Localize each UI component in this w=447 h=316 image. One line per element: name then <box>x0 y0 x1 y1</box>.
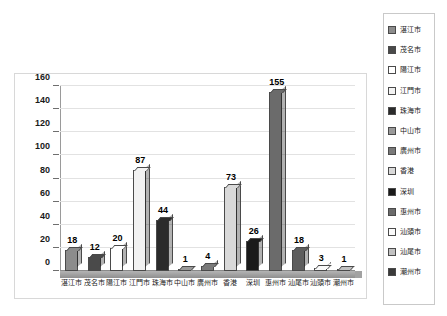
bar-value-label: 1 <box>183 255 188 264</box>
bar-slot[interactable]: 155 <box>264 86 287 271</box>
bar[interactable]: 20 <box>110 248 123 271</box>
bar-slot[interactable]: 1 <box>332 86 355 271</box>
bar-face[interactable] <box>178 269 191 271</box>
bar-series: 18122087441473261551831 <box>60 86 355 271</box>
bar-value-label: 20 <box>113 234 123 243</box>
legend-item-label: 潮州市 <box>400 268 421 276</box>
chart-page: 020406080100120140160 181220874414732615… <box>0 0 447 316</box>
legend-item-label: 茂名市 <box>400 46 421 54</box>
bar-face[interactable] <box>156 220 169 271</box>
legend-item-label: 陽江市 <box>400 66 421 74</box>
bar-face[interactable] <box>110 248 123 271</box>
x-axis-label: 潮州市 <box>332 279 355 287</box>
chart-floor <box>60 270 355 278</box>
bar-side-face <box>281 86 286 267</box>
bar-top-face <box>202 263 219 267</box>
bar-face[interactable] <box>337 269 350 271</box>
legend-swatch-icon <box>388 248 396 256</box>
bar-slot[interactable]: 18 <box>287 86 310 271</box>
plot-area: 020406080100120140160 181220874414732615… <box>60 86 355 271</box>
y-axis-tick-label: 40 <box>40 211 50 220</box>
legend-item[interactable]: 潮州市 <box>388 262 431 282</box>
bar[interactable]: 155 <box>269 92 282 271</box>
bar-top-face <box>225 184 242 188</box>
x-axis-label: 珠海市 <box>151 279 174 287</box>
bar-slot[interactable]: 4 <box>196 86 219 271</box>
x-axis-labels: 湛江市茂名市陽江市江門市珠海市中山市廣州市香港深圳惠州市汕尾市汕頭市潮州市 <box>60 279 355 287</box>
legend-item[interactable]: 珠海市 <box>388 101 431 121</box>
legend-swatch-icon <box>388 26 396 34</box>
y-axis-tick-label: 60 <box>40 188 50 197</box>
bar-face[interactable] <box>224 187 237 271</box>
bar-face[interactable] <box>65 250 78 271</box>
legend-item[interactable]: 陽江市 <box>388 60 431 80</box>
bar[interactable]: 18 <box>292 250 305 271</box>
bar[interactable]: 44 <box>156 220 169 271</box>
bar[interactable]: 18 <box>65 250 78 271</box>
x-axis-label: 茂名市 <box>83 279 106 287</box>
bar[interactable]: 4 <box>201 266 214 271</box>
legend-swatch-icon <box>388 188 396 196</box>
bar-face[interactable] <box>133 170 146 271</box>
bar-slot[interactable]: 1 <box>173 86 196 271</box>
bar-face[interactable] <box>201 266 214 271</box>
legend-item[interactable]: 中山市 <box>388 121 431 141</box>
x-axis-label: 中山市 <box>173 279 196 287</box>
bar-face[interactable] <box>88 257 101 271</box>
chart-legend: 湛江市茂名市陽江市江門市珠海市中山市廣州市香港深圳惠州市汕頭市汕尾市潮州市 <box>383 13 435 305</box>
x-axis-label: 深圳 <box>242 279 265 287</box>
bar-slot[interactable]: 26 <box>242 86 265 271</box>
bar[interactable]: 87 <box>133 170 146 271</box>
bar-face[interactable] <box>246 241 259 271</box>
legend-swatch-icon <box>388 228 396 236</box>
bar-slot[interactable]: 12 <box>83 86 106 271</box>
legend-item[interactable]: 汕尾市 <box>388 242 431 262</box>
legend-swatch-icon <box>388 87 396 95</box>
legend-swatch-icon <box>388 66 396 74</box>
x-axis-label: 廣州市 <box>196 279 219 287</box>
bar[interactable]: 1 <box>337 269 350 271</box>
bar-top-face <box>179 266 196 270</box>
bar-face[interactable] <box>269 92 282 271</box>
legend-item[interactable]: 江門市 <box>388 81 431 101</box>
legend-item[interactable]: 深圳 <box>388 182 431 202</box>
legend-item[interactable]: 茂名市 <box>388 40 431 60</box>
bar-value-label: 87 <box>135 156 145 165</box>
bar[interactable]: 26 <box>246 241 259 271</box>
bar-slot[interactable]: 44 <box>151 86 174 271</box>
bar[interactable]: 12 <box>88 257 101 271</box>
legend-item[interactable]: 湛江市 <box>388 20 431 40</box>
legend-item[interactable]: 廣州市 <box>388 141 431 161</box>
legend-item[interactable]: 香港 <box>388 161 431 181</box>
y-axis-tick <box>53 154 59 155</box>
legend-item[interactable]: 惠州市 <box>388 202 431 222</box>
bar-value-label: 3 <box>319 254 324 263</box>
bar-value-label: 18 <box>294 236 304 245</box>
legend-item[interactable]: 汕頭市 <box>388 222 431 242</box>
chart-frame: 020406080100120140160 181220874414732615… <box>14 73 367 299</box>
bar[interactable]: 3 <box>314 268 327 271</box>
y-axis-tick-label: 100 <box>35 142 50 151</box>
legend-swatch-icon <box>388 208 396 216</box>
bar[interactable]: 1 <box>178 269 191 271</box>
legend-item-label: 汕尾市 <box>400 248 421 256</box>
bar-slot[interactable]: 3 <box>310 86 333 271</box>
x-axis-label: 湛江市 <box>60 279 83 287</box>
y-axis-tick <box>53 224 59 225</box>
bar-face[interactable] <box>292 250 305 271</box>
bar-slot[interactable]: 87 <box>128 86 151 271</box>
legend-swatch-icon <box>388 127 396 135</box>
bar-face[interactable] <box>314 268 327 271</box>
bar-value-label: 44 <box>158 206 168 215</box>
legend-swatch-icon <box>388 268 396 276</box>
bar-slot[interactable]: 18 <box>60 86 83 271</box>
bar[interactable]: 73 <box>224 187 237 271</box>
y-axis-tick-label: 80 <box>40 165 50 174</box>
y-axis-tick-label: 160 <box>35 73 50 82</box>
legend-swatch-icon <box>388 46 396 54</box>
y-axis-tick-label: 20 <box>40 234 50 243</box>
x-axis-label: 汕尾市 <box>287 279 310 287</box>
bar-slot[interactable]: 20 <box>105 86 128 271</box>
y-axis-tick <box>53 201 59 202</box>
bar-slot[interactable]: 73 <box>219 86 242 271</box>
